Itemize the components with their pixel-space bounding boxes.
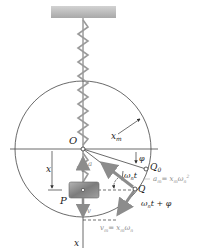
label-total-angle: ωnt + φ (141, 199, 172, 209)
label-origin: O (69, 135, 77, 146)
total-angle-arc (114, 178, 118, 188)
radius-arrow (118, 119, 140, 134)
label-q: Q (138, 184, 146, 194)
point-o (81, 147, 85, 151)
label-accel-small: a (88, 160, 92, 168)
point-q (133, 187, 137, 191)
label-q0: Q0 (150, 162, 161, 173)
label-accel-max: am= xmωn2 (153, 174, 189, 184)
velocity-vector (118, 191, 134, 214)
label-omega-t: ωnt (124, 171, 138, 181)
label-phase: φ (139, 154, 145, 163)
point-q0 (144, 167, 148, 171)
line-o-q0 (83, 149, 146, 169)
diagram-canvas: O xm φ ωnt Q0 Q ωnt + φ am= xmωn2 a x P … (0, 0, 202, 252)
ceiling-support (51, 6, 116, 18)
label-velocity-small: v (87, 207, 91, 215)
label-displacement: x (46, 164, 51, 174)
label-axis: x (74, 238, 79, 248)
point-p (81, 188, 84, 191)
label-mass: P (59, 195, 67, 206)
label-velocity-max: vm= xmωn (100, 224, 133, 233)
